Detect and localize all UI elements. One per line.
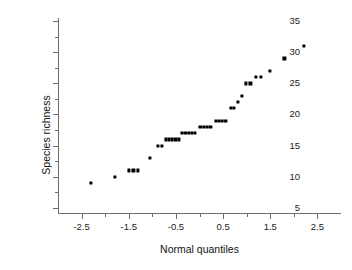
plot-area: [58, 18, 341, 214]
data-point: [156, 144, 159, 147]
x-tick-minor: [105, 214, 106, 217]
x-axis-title: Normal quantiles: [58, 243, 341, 255]
data-point: [127, 169, 130, 172]
x-tick-label: 1.5: [264, 222, 277, 232]
x-axis-ticks: [58, 214, 341, 222]
data-point: [177, 138, 180, 141]
data-point: [137, 169, 140, 172]
data-point: [254, 76, 257, 79]
x-tick-label: -1.5: [121, 222, 137, 232]
x-tick-minor: [294, 214, 295, 217]
data-point: [113, 175, 116, 178]
data-point: [240, 94, 243, 97]
data-point: [160, 144, 163, 147]
data-point: [283, 57, 286, 60]
data-point: [303, 44, 306, 47]
x-tick: [317, 214, 318, 219]
x-tick-minor: [247, 214, 248, 217]
x-tick-label: 0.5: [216, 222, 229, 232]
data-point: [148, 156, 151, 159]
data-point: [245, 82, 248, 85]
x-tick-label: -0.5: [168, 222, 184, 232]
data-point: [269, 69, 272, 72]
data-point: [260, 76, 263, 79]
x-tick-minor: [200, 214, 201, 217]
y-axis-title: Species richness: [40, 95, 52, 174]
x-tick: [129, 214, 130, 219]
data-point: [132, 169, 135, 172]
data-point: [194, 132, 197, 135]
x-tick: [82, 214, 83, 219]
x-tick: [176, 214, 177, 219]
data-point: [224, 119, 227, 122]
x-tick: [223, 214, 224, 219]
x-tick-label: -2.5: [73, 222, 89, 232]
data-point: [89, 181, 92, 184]
x-tick: [270, 214, 271, 219]
data-point: [249, 82, 252, 85]
data-point: [209, 125, 212, 128]
x-tick-label: 2.5: [311, 222, 324, 232]
x-tick-minor: [152, 214, 153, 217]
data-point: [237, 100, 240, 103]
qq-plot-figure: 5101520253035 -2.5-1.5-0.50.51.52.5 Spec…: [0, 0, 352, 270]
data-point: [232, 107, 235, 110]
